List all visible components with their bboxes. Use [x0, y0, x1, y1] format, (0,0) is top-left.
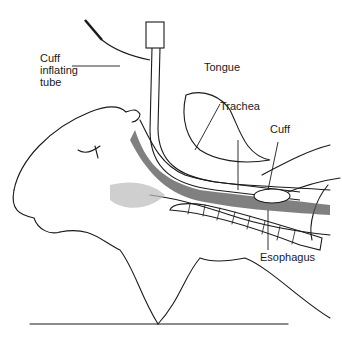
- label-esophagus: Esophagus: [260, 251, 315, 263]
- label-line: Cuff: [40, 52, 78, 64]
- cuff-inflating-tube: [102, 40, 150, 60]
- label-line: inflating: [40, 64, 78, 76]
- label-trachea: Trachea: [220, 100, 260, 112]
- cuff-balloon: [254, 189, 290, 203]
- label-cuff: Cuff: [270, 123, 290, 135]
- label-cuff-inflating-tube: Cuff inflating tube: [40, 52, 78, 88]
- label-tongue: Tongue: [204, 61, 240, 73]
- head-outline: [14, 107, 140, 190]
- intubation-illustration: [0, 0, 342, 340]
- label-line: tube: [40, 76, 78, 88]
